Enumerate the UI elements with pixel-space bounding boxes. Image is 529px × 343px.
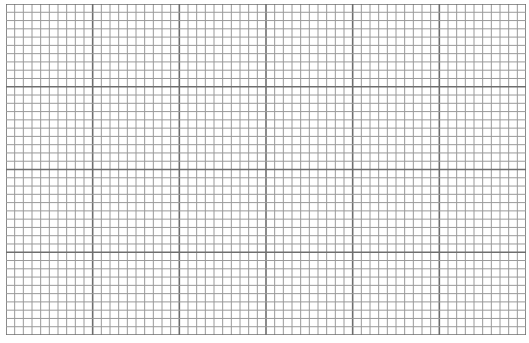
graph-paper-grid bbox=[6, 4, 526, 335]
